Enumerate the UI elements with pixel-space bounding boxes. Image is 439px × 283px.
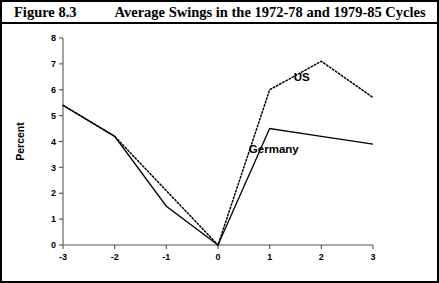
x-tick-label: 2 bbox=[319, 252, 324, 262]
series-annotations: USGermany bbox=[249, 71, 310, 155]
y-tick-label: 6 bbox=[51, 85, 56, 95]
x-axis: -3-2-10123 bbox=[59, 245, 376, 262]
y-tick-label: 2 bbox=[51, 188, 56, 198]
x-tick-group: -3-2-10123 bbox=[59, 245, 376, 262]
y-axis: 012345678 bbox=[51, 33, 63, 250]
y-tick-label: 3 bbox=[51, 163, 56, 173]
figure-container: Figure 8.3 Average Swings in the 1972-78… bbox=[0, 0, 439, 283]
series-label-us: US bbox=[294, 71, 310, 83]
x-tick-label: -1 bbox=[162, 252, 170, 262]
x-tick-label: 3 bbox=[370, 252, 375, 262]
y-tick-label: 7 bbox=[51, 59, 56, 69]
x-tick-label: -2 bbox=[111, 252, 119, 262]
data-series-group bbox=[63, 61, 373, 245]
y-tick-label: 4 bbox=[51, 137, 56, 147]
x-tick-label: 0 bbox=[215, 252, 220, 262]
y-tick-label: 5 bbox=[51, 111, 56, 121]
line-chart: 012345678 -3-2-10123 Percent USGermany bbox=[2, 24, 437, 281]
y-tick-group: 012345678 bbox=[51, 33, 63, 250]
y-tick-label: 0 bbox=[51, 240, 56, 250]
figure-number: Figure 8.3 bbox=[14, 4, 77, 21]
series-label-germany: Germany bbox=[249, 143, 299, 155]
figure-title: Average Swings in the 1972-78 and 1979-8… bbox=[115, 4, 426, 21]
chart-plot-area: 012345678 -3-2-10123 Percent USGermany bbox=[2, 24, 437, 281]
y-tick-label: 1 bbox=[51, 214, 56, 224]
x-tick-label: -3 bbox=[59, 252, 67, 262]
figure-title-bar: Figure 8.3 Average Swings in the 1972-78… bbox=[2, 2, 437, 24]
series-line-germany bbox=[63, 105, 373, 245]
series-line-us bbox=[63, 61, 373, 245]
x-tick-label: 1 bbox=[267, 252, 272, 262]
y-axis-title: Percent bbox=[14, 122, 26, 161]
y-tick-label: 8 bbox=[51, 33, 56, 43]
